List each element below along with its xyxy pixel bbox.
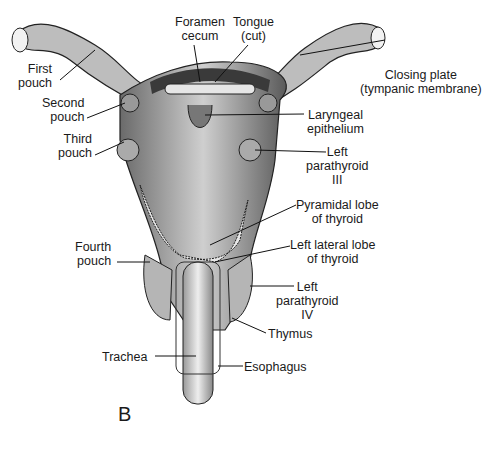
label-line: Laryngeal bbox=[307, 108, 364, 122]
label-tongue: Tongue (cut) bbox=[233, 15, 274, 43]
label-line: Trachea bbox=[102, 350, 147, 364]
label-line: Left bbox=[306, 145, 369, 159]
label-line: pouch bbox=[75, 254, 111, 268]
label-line: Left lateral lobe bbox=[290, 238, 375, 252]
label-line: (cut) bbox=[233, 29, 274, 43]
label-line: parathyroid bbox=[306, 159, 369, 173]
label-line: pouch bbox=[42, 110, 84, 124]
label-line: Esophagus bbox=[244, 360, 307, 374]
label-line: Fourth bbox=[75, 240, 111, 254]
label-trachea: Trachea bbox=[102, 350, 147, 364]
label-line: Third bbox=[58, 132, 92, 146]
label-thymus: Thymus bbox=[268, 327, 312, 341]
label-esophagus: Esophagus bbox=[244, 360, 307, 374]
label-line: Thymus bbox=[268, 327, 312, 341]
label-line: epithelium bbox=[307, 122, 364, 136]
label-pyramidal-lobe: Pyramidal lobe of thyroid bbox=[296, 198, 379, 226]
label-line: First bbox=[18, 62, 52, 76]
label-line: Pyramidal lobe bbox=[296, 198, 379, 212]
label-line: III bbox=[306, 173, 369, 187]
label-line: (tympanic membrane) bbox=[360, 82, 482, 96]
label-line: pouch bbox=[18, 76, 52, 90]
label-line: of thyroid bbox=[290, 252, 375, 266]
label-left-parathyroid-iv: Left parathyroid IV bbox=[276, 280, 339, 322]
label-line: Closing plate bbox=[360, 68, 482, 82]
label-line: Second bbox=[42, 96, 84, 110]
label-line: IV bbox=[276, 308, 339, 322]
label-line: pouch bbox=[58, 146, 92, 160]
label-line: cecum bbox=[175, 29, 225, 43]
label-closing-plate: Closing plate (tympanic membrane) bbox=[360, 68, 482, 96]
label-line: Foramen bbox=[175, 15, 225, 29]
label-line: parathyroid bbox=[276, 294, 339, 308]
label-foramen-cecum: Foramen cecum bbox=[175, 15, 225, 43]
label-line: of thyroid bbox=[296, 212, 379, 226]
label-left-lateral-lobe: Left lateral lobe of thyroid bbox=[290, 238, 375, 266]
label-left-parathyroid-iii: Left parathyroid III bbox=[306, 145, 369, 187]
label-line: Left bbox=[276, 280, 339, 294]
label-fourth-pouch: Fourth pouch bbox=[75, 240, 111, 268]
label-line: Tongue bbox=[233, 15, 274, 29]
panel-letter: B bbox=[118, 403, 131, 426]
label-laryngeal-epithelium: Laryngeal epithelium bbox=[307, 108, 364, 136]
label-first-pouch: First pouch bbox=[18, 62, 52, 90]
label-third-pouch: Third pouch bbox=[58, 132, 92, 160]
label-second-pouch: Second pouch bbox=[42, 96, 84, 124]
